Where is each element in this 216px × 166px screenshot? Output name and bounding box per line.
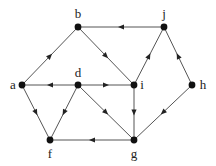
- node-f: [47, 137, 54, 144]
- node-label-h: h: [200, 77, 207, 92]
- edges-group: [22, 27, 192, 140]
- node-i: [131, 82, 138, 89]
- node-b: [75, 24, 82, 31]
- labels-group: bjadihfg: [10, 6, 207, 161]
- directed-graph-diagram: bjadihfg: [0, 0, 216, 166]
- node-j: [161, 24, 168, 31]
- arrowhead-icon: [118, 24, 124, 29]
- node-label-f: f: [48, 146, 53, 161]
- arrowhead-icon: [89, 137, 95, 142]
- node-h: [189, 82, 196, 89]
- node-g: [131, 137, 138, 144]
- node-d: [75, 82, 82, 89]
- node-label-j: j: [161, 6, 166, 21]
- node-label-g: g: [131, 146, 138, 161]
- nodes-group: [19, 24, 196, 144]
- arrowhead-icon: [103, 82, 109, 87]
- node-a: [19, 82, 26, 89]
- arrowhead-icon: [131, 110, 136, 116]
- node-label-i: i: [140, 77, 144, 92]
- node-label-a: a: [10, 77, 16, 92]
- arrowhead-icon: [47, 82, 53, 87]
- node-label-b: b: [75, 6, 82, 21]
- node-label-d: d: [75, 65, 82, 80]
- arrowheads-group: [32, 24, 181, 142]
